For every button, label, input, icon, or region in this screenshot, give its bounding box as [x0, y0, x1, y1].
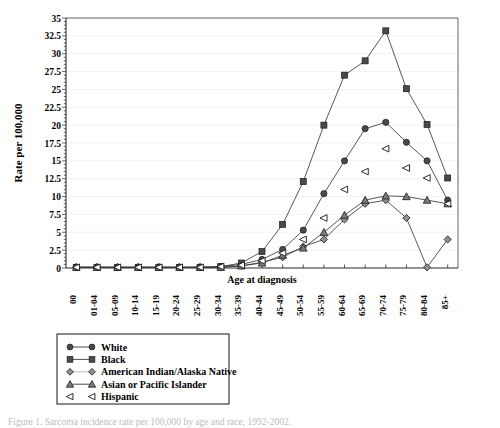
x-tick-label: 01-04	[89, 295, 99, 316]
x-axis-tick-labels: 0001-0405-0910-1415-1920-2425-2930-3435-…	[68, 295, 449, 317]
y-axis-title: Rate per 100,000	[12, 103, 24, 182]
x-tick-label: 00	[68, 295, 78, 305]
x-tick-label: 70-74	[378, 295, 388, 316]
x-axis-title: Age at diagnosis	[227, 274, 297, 285]
figure-caption: Figure 1. Sarcoma incidence rate per 100…	[8, 417, 291, 427]
data-point-marker	[423, 264, 430, 271]
data-point-marker	[382, 192, 390, 199]
legend-label: Asian or Pacific Islander	[101, 379, 207, 390]
y-tick-label: 0	[56, 264, 61, 274]
x-tick-label: 80-84	[419, 295, 429, 316]
y-tick-label: 17.5	[44, 139, 61, 149]
series-line	[76, 31, 447, 267]
y-tick-label: 32.5	[44, 31, 61, 41]
data-point-marker	[403, 86, 409, 92]
legend-label: American Indian/Alaska Native	[101, 366, 237, 377]
x-tick-label: 10-14	[130, 295, 140, 316]
gridlines	[66, 18, 458, 250]
x-tick-label: 75-79	[398, 295, 408, 316]
series-black	[73, 28, 450, 270]
data-point-marker	[321, 122, 327, 128]
data-point-marker	[383, 119, 389, 125]
data-point-marker	[423, 175, 430, 182]
legend-marker	[67, 357, 73, 363]
data-point-marker	[300, 227, 306, 233]
y-tick-label: 35	[52, 14, 62, 24]
y-tick-label: 10	[52, 192, 62, 202]
data-point-marker	[362, 58, 368, 64]
x-tick-label: 05-09	[110, 295, 120, 316]
x-tick-label: 15-19	[151, 295, 161, 316]
x-tick-label: 85+	[440, 295, 450, 309]
data-point-marker	[424, 158, 430, 164]
x-tick-label: 55-59	[316, 295, 326, 316]
data-point-marker	[342, 72, 348, 78]
data-point-marker	[341, 186, 348, 193]
legend-label: Black	[101, 354, 126, 365]
data-point-marker	[444, 236, 451, 243]
x-tick-label: 20-24	[171, 295, 181, 316]
data-point-marker	[300, 179, 306, 185]
legend-marker	[89, 357, 95, 363]
x-tick-label: 30-34	[213, 295, 223, 316]
legend-label: White	[101, 342, 128, 353]
data-point-marker	[403, 165, 410, 172]
y-tick-label: 20	[52, 121, 62, 131]
x-tick-label: 65-69	[357, 295, 367, 316]
data-point-marker	[403, 139, 409, 145]
y-tick-label: 15	[52, 156, 62, 166]
data-point-marker	[383, 28, 389, 34]
y-tick-label: 30	[52, 49, 62, 59]
data-point-marker	[424, 121, 430, 127]
x-tick-label: 60-64	[337, 295, 347, 316]
x-tick-label: 35-39	[233, 295, 243, 316]
x-tick-label: 40-44	[254, 295, 264, 316]
data-point-marker	[299, 236, 306, 243]
series-line	[76, 122, 447, 267]
figure-container: Rate per 100,000 0 2.5 5 7.5 10 12.5 15 …	[0, 0, 500, 428]
x-tick-label: 25-29	[192, 295, 202, 316]
x-tick-label: 50-54	[295, 295, 305, 316]
data-point-marker	[382, 145, 389, 152]
y-tick-label: 22.5	[44, 103, 61, 113]
legend-marker	[89, 344, 95, 350]
y-tick-label: 7.5	[49, 210, 61, 220]
data-point-marker	[341, 211, 349, 218]
legend-label: Hispanic	[101, 391, 139, 402]
y-tick-label: 12.5	[44, 174, 61, 184]
data-point-marker	[259, 249, 265, 255]
y-tick-label: 25	[52, 85, 62, 95]
data-point-marker	[362, 126, 368, 132]
data-series-layer	[72, 28, 451, 271]
legend-marker	[67, 344, 73, 350]
data-point-marker	[321, 191, 327, 197]
y-tick-label: 27.5	[44, 67, 61, 77]
data-point-marker	[445, 175, 451, 181]
rate-by-age-and-race-line-chart: Rate per 100,000 0 2.5 5 7.5 10 12.5 15 …	[0, 0, 500, 428]
y-axis-ticks: 0 2.5 5 7.5 10 12.5 15 17.5 20 22.5 25 2…	[44, 14, 66, 274]
x-tick-label: 45-49	[275, 295, 285, 316]
data-point-marker	[341, 158, 347, 164]
data-point-marker	[280, 221, 286, 227]
data-point-marker	[361, 168, 368, 175]
data-point-marker	[320, 215, 327, 222]
series-white	[73, 119, 451, 270]
y-tick-label: 2.5	[49, 246, 61, 256]
y-tick-label: 5	[56, 228, 61, 238]
